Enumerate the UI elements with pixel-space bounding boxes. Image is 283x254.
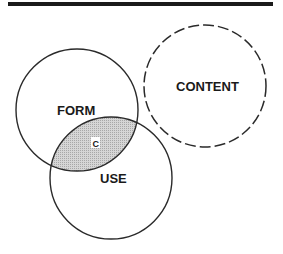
- content-label: CONTENT: [176, 79, 239, 94]
- intersection-label: C: [93, 139, 100, 149]
- top-rule: [8, 2, 273, 6]
- form-label: FORM: [57, 103, 95, 118]
- venn-diagram: FORM USE CONTENT C: [0, 0, 283, 254]
- use-label: USE: [100, 171, 127, 186]
